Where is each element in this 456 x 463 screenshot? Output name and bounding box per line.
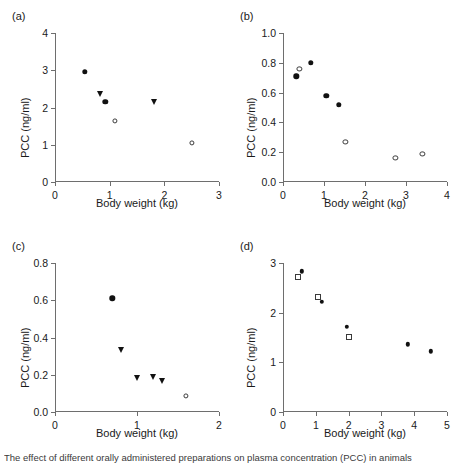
x-tick-label-d-5: 5	[444, 419, 450, 431]
data-point-c-filled-triangle-0	[118, 347, 124, 353]
x-tick-b-3	[406, 182, 407, 186]
x-axis-title-c: Body weight (kg)	[96, 427, 178, 439]
figure-caption: The effect of different orally administe…	[4, 452, 452, 463]
x-tick-a-3	[219, 182, 220, 186]
data-point-b-open-circle-1	[343, 139, 348, 144]
x-tick-a-0	[55, 182, 56, 186]
data-point-d-filled-circle-2	[345, 324, 349, 328]
y-tick-label-d-3: 3	[243, 257, 276, 269]
data-point-c-filled-circle-0	[110, 296, 115, 301]
y-tick-label-c-3: 0.6	[15, 294, 48, 306]
x-axis-line-a	[55, 181, 219, 182]
y-tick-d-3	[279, 263, 283, 264]
y-tick-a-2	[51, 108, 55, 109]
panel-label-a: (a)	[12, 10, 25, 22]
x-axis-title-b: Body weight (kg)	[324, 197, 406, 209]
x-tick-a-1	[110, 182, 111, 186]
x-tick-d-5	[447, 412, 448, 416]
x-tick-d-2	[349, 412, 350, 416]
y-tick-a-3	[51, 70, 55, 71]
x-tick-c-1	[137, 412, 138, 416]
data-point-b-open-circle-3	[420, 151, 425, 156]
x-axis-title-d: Body weight (kg)	[324, 427, 406, 439]
x-tick-d-3	[381, 412, 382, 416]
data-point-d-open-square-1	[315, 294, 321, 300]
plot-area-b	[283, 33, 447, 182]
x-tick-c-0	[55, 412, 56, 416]
data-point-b-open-circle-2	[393, 156, 398, 161]
data-point-a-open-circle-1	[189, 141, 194, 146]
x-tick-c-2	[219, 412, 220, 416]
y-tick-label-c-4: 0.8	[15, 257, 48, 269]
x-tick-b-0	[283, 182, 284, 186]
x-tick-label-a-0: 0	[52, 189, 58, 201]
y-axis-line-b	[283, 33, 284, 182]
data-point-c-filled-triangle-3	[159, 378, 165, 384]
y-tick-c-2	[51, 338, 55, 339]
y-tick-label-b-5: 1.0	[243, 27, 276, 39]
x-tick-label-a-3: 3	[216, 189, 222, 201]
data-point-b-open-circle-0	[297, 66, 302, 71]
data-point-d-filled-circle-4	[428, 349, 432, 353]
y-tick-c-0	[51, 412, 55, 413]
y-axis-line-d	[283, 263, 284, 412]
y-tick-label-b-4: 0.8	[243, 57, 276, 69]
x-axis-title-a: Body weight (kg)	[96, 197, 178, 209]
plot-area-d	[283, 263, 447, 412]
y-axis-title-d: PCC (ng/ml)	[245, 327, 257, 388]
data-point-a-filled-triangle-1	[151, 99, 157, 105]
x-tick-label-d-4: 4	[411, 419, 417, 431]
y-tick-label-b-0: 0.0	[243, 176, 276, 188]
y-tick-d-2	[279, 313, 283, 314]
x-tick-d-1	[316, 412, 317, 416]
y-tick-a-4	[51, 33, 55, 34]
data-point-d-filled-circle-3	[405, 342, 409, 346]
y-tick-label-a-0: 0	[15, 176, 48, 188]
x-tick-a-2	[164, 182, 165, 186]
data-point-d-open-square-0	[295, 274, 301, 280]
y-tick-c-3	[51, 300, 55, 301]
data-point-c-filled-triangle-1	[134, 375, 140, 381]
data-point-b-filled-circle-3	[336, 102, 341, 107]
y-tick-a-0	[51, 182, 55, 183]
data-point-a-filled-circle-1	[103, 99, 108, 104]
y-axis-title-b: PCC (ng/ml)	[245, 97, 257, 158]
y-tick-d-0	[279, 412, 283, 413]
y-tick-a-1	[51, 145, 55, 146]
x-tick-label-b-0: 0	[280, 189, 286, 201]
y-tick-label-d-0: 0	[243, 406, 276, 418]
y-tick-b-4	[279, 63, 283, 64]
x-tick-b-4	[447, 182, 448, 186]
x-tick-b-2	[365, 182, 366, 186]
data-point-d-open-square-2	[346, 334, 352, 340]
panel-label-c: (c)	[12, 240, 25, 252]
x-tick-label-c-0: 0	[52, 419, 58, 431]
data-point-d-filled-circle-1	[320, 300, 324, 304]
y-tick-b-0	[279, 182, 283, 183]
y-tick-b-3	[279, 93, 283, 94]
x-tick-label-d-0: 0	[280, 419, 286, 431]
y-tick-b-1	[279, 152, 283, 153]
data-point-b-filled-circle-0	[293, 74, 298, 79]
x-tick-d-4	[414, 412, 415, 416]
x-axis-line-d	[283, 411, 447, 412]
data-point-b-filled-circle-2	[324, 93, 329, 98]
data-point-a-filled-circle-0	[82, 69, 87, 74]
y-axis-title-c: PCC (ng/ml)	[19, 327, 31, 388]
x-tick-d-0	[283, 412, 284, 416]
y-tick-c-1	[51, 375, 55, 376]
y-tick-label-a-4: 4	[15, 27, 48, 39]
y-tick-c-4	[51, 263, 55, 264]
y-tick-b-2	[279, 122, 283, 123]
x-tick-label-d-1: 1	[313, 419, 319, 431]
panel-label-d: (d)	[240, 240, 253, 252]
data-point-c-filled-triangle-2	[150, 374, 156, 380]
y-tick-label-a-3: 3	[15, 64, 48, 76]
x-tick-label-b-4: 4	[444, 189, 450, 201]
data-point-a-open-circle-0	[112, 118, 117, 123]
y-tick-label-d-2: 2	[243, 307, 276, 319]
y-tick-d-1	[279, 362, 283, 363]
data-point-b-filled-circle-1	[308, 60, 313, 65]
x-tick-b-1	[324, 182, 325, 186]
y-axis-line-c	[55, 263, 56, 412]
